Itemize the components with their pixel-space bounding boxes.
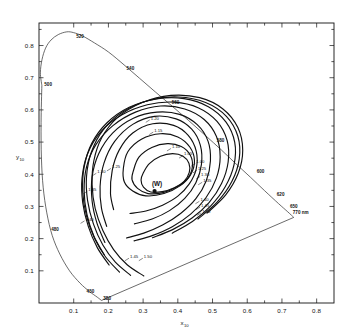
- contour-label: 1.35: [203, 178, 212, 183]
- axis-titles: x10y10: [16, 153, 189, 328]
- contour-label: 1.05: [184, 151, 193, 156]
- locus-path: [40, 32, 293, 218]
- x-tick-label: 0.7: [277, 307, 287, 314]
- y-tick-label: 0.1: [25, 267, 35, 274]
- contour-label: 1.45: [130, 254, 139, 259]
- contour-label: 1.50: [144, 254, 153, 259]
- contour-label: 1.00: [196, 159, 205, 164]
- wavelength-label: 480: [51, 227, 59, 232]
- y-tick-label: 0.8: [25, 42, 35, 49]
- wavelength-label: 560: [172, 100, 180, 105]
- wavelength-label: 520: [76, 34, 84, 39]
- contour-label: 1.30: [201, 172, 210, 177]
- wavelength-label: 500: [44, 82, 52, 87]
- contour-label: 1.50: [202, 209, 211, 214]
- contour-label: 1.20: [151, 116, 160, 121]
- wavelength-label: 770 nm: [293, 210, 309, 215]
- wavelength-label: 650: [290, 204, 298, 209]
- white-point-dot: [152, 189, 156, 193]
- y-axis-subscript: 10: [19, 157, 24, 162]
- contour-label: 1.10: [172, 144, 181, 149]
- x-tick-label: 0.8: [312, 307, 322, 314]
- contour-label: 1.40: [86, 217, 95, 222]
- contour-path: [123, 134, 194, 196]
- contour-label: 1.25: [112, 164, 121, 169]
- wavelength-label: 540: [127, 66, 135, 71]
- contour-label: 1.40: [200, 197, 209, 202]
- contour-path: [141, 154, 190, 193]
- wavelength-label: 380: [103, 296, 111, 301]
- x-tick-label: 0.2: [104, 307, 114, 314]
- y-tick-label: 0.5: [25, 138, 35, 145]
- axis-tick-labels: 0.10.20.30.40.50.60.70.80.10.20.30.40.50…: [25, 42, 322, 314]
- wavelength-label: 600: [257, 169, 265, 174]
- contour-label: 1.30: [97, 169, 106, 174]
- white-point-marker: (W): [152, 180, 162, 194]
- spectral-locus: [40, 32, 293, 301]
- x-tick-label: 0.4: [173, 307, 183, 314]
- y-tick-label: 0.6: [25, 106, 35, 113]
- plot-frame: [39, 23, 334, 303]
- x-tick-label: 0.3: [139, 307, 149, 314]
- y-axis-title: y10: [16, 153, 25, 162]
- wavelength-label: 620: [277, 192, 285, 197]
- white-point-label: (W): [152, 180, 162, 188]
- x-axis-subscript: 10: [184, 323, 189, 328]
- x-tick-label: 0.1: [69, 307, 79, 314]
- y-tick-label: 0.7: [25, 74, 35, 81]
- contour-label: 1.45: [201, 203, 210, 208]
- axis-ticks: [39, 23, 334, 303]
- chromaticity-diagram-figure: 0.10.20.30.40.50.60.70.80.10.20.30.40.50…: [0, 0, 356, 336]
- chart-canvas: 0.10.20.30.40.50.60.70.80.10.20.30.40.50…: [0, 0, 356, 336]
- contour-label: 1.25: [198, 166, 207, 171]
- x-tick-label: 0.5: [208, 307, 218, 314]
- y-tick-label: 0.4: [25, 171, 35, 178]
- x-axis-title: x10: [181, 319, 190, 328]
- y-tick-label: 0.3: [25, 203, 35, 210]
- y-tick-label: 0.2: [25, 235, 35, 242]
- contour-label: 1.15: [154, 128, 163, 133]
- x-tick-label: 0.6: [243, 307, 253, 314]
- wavelength-label: 450: [87, 289, 95, 294]
- wavelength-label: 580: [217, 138, 225, 143]
- contour-label: 1.35: [88, 187, 97, 192]
